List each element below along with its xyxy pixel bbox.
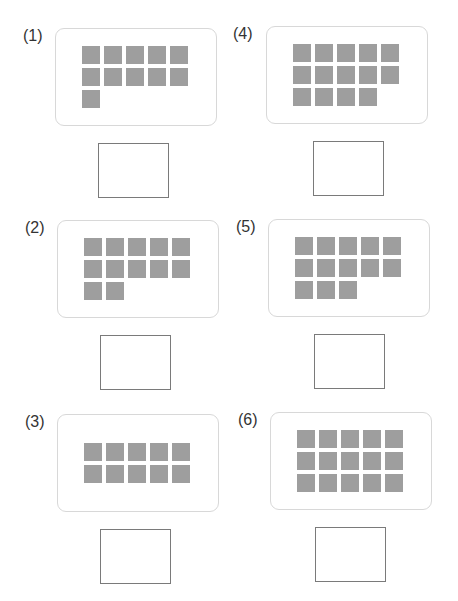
problem-label: (3) (25, 413, 45, 431)
count-square (317, 281, 335, 299)
square-grid (82, 46, 188, 108)
count-square (104, 68, 122, 86)
count-square (317, 259, 335, 277)
count-square (170, 46, 188, 64)
count-square (317, 237, 335, 255)
count-square (315, 44, 333, 62)
count-square (106, 465, 124, 483)
counting-card (57, 414, 219, 512)
count-square (297, 430, 315, 448)
count-square (150, 260, 168, 278)
count-square (341, 474, 359, 492)
count-square (297, 452, 315, 470)
count-square (337, 88, 355, 106)
count-square (363, 430, 381, 448)
count-square (341, 452, 359, 470)
answer-box[interactable] (100, 335, 171, 390)
count-square (84, 238, 102, 256)
problem-6: (6) (238, 411, 438, 601)
problem-label: (5) (236, 218, 256, 236)
count-square (341, 430, 359, 448)
count-square (293, 88, 311, 106)
count-square (361, 237, 379, 255)
problem-label: (2) (25, 219, 45, 237)
counting-card (268, 219, 430, 317)
problem-1: (1) (23, 27, 223, 217)
count-square (84, 282, 102, 300)
count-square (84, 465, 102, 483)
count-square (339, 259, 357, 277)
square-grid (297, 430, 403, 492)
count-square (106, 282, 124, 300)
counting-card (266, 26, 428, 124)
count-square (381, 44, 399, 62)
count-square (359, 66, 377, 84)
count-square (170, 68, 188, 86)
count-square (295, 259, 313, 277)
count-square (359, 44, 377, 62)
count-square (295, 237, 313, 255)
count-square (383, 259, 401, 277)
count-square (172, 443, 190, 461)
count-square (84, 443, 102, 461)
answer-box[interactable] (313, 141, 384, 196)
count-square (126, 46, 144, 64)
count-square (104, 46, 122, 64)
count-square (106, 443, 124, 461)
answer-box[interactable] (315, 527, 386, 582)
answer-box[interactable] (98, 143, 169, 198)
count-square (126, 68, 144, 86)
problem-label: (6) (238, 411, 258, 429)
count-square (84, 260, 102, 278)
count-square (385, 430, 403, 448)
counting-card (55, 28, 217, 126)
count-square (82, 68, 100, 86)
count-square (82, 90, 100, 108)
problem-5: (5) (236, 218, 436, 408)
square-grid (84, 238, 190, 300)
count-square (319, 452, 337, 470)
count-square (106, 238, 124, 256)
count-square (363, 474, 381, 492)
count-square (128, 443, 146, 461)
answer-box[interactable] (100, 529, 171, 584)
count-square (359, 88, 377, 106)
count-square (337, 44, 355, 62)
count-square (128, 260, 146, 278)
count-square (150, 238, 168, 256)
count-square (106, 260, 124, 278)
count-square (297, 474, 315, 492)
count-square (150, 443, 168, 461)
count-square (295, 281, 313, 299)
count-square (172, 238, 190, 256)
count-square (128, 465, 146, 483)
count-square (148, 46, 166, 64)
count-square (339, 281, 357, 299)
count-square (381, 66, 399, 84)
count-square (293, 44, 311, 62)
count-square (148, 68, 166, 86)
count-square (319, 430, 337, 448)
count-square (128, 238, 146, 256)
count-square (82, 46, 100, 64)
square-grid (84, 443, 190, 483)
answer-box[interactable] (314, 334, 385, 389)
count-square (385, 452, 403, 470)
count-square (315, 88, 333, 106)
counting-card (57, 220, 219, 318)
count-square (361, 259, 379, 277)
count-square (150, 465, 168, 483)
count-square (172, 465, 190, 483)
count-square (293, 66, 311, 84)
count-square (337, 66, 355, 84)
problem-2: (2) (25, 219, 225, 409)
count-square (383, 237, 401, 255)
count-square (319, 474, 337, 492)
problem-label: (4) (233, 25, 253, 43)
problem-4: (4) (233, 25, 433, 215)
count-square (385, 474, 403, 492)
count-square (363, 452, 381, 470)
problem-3: (3) (25, 413, 225, 601)
count-square (339, 237, 357, 255)
problem-label: (1) (23, 27, 43, 45)
